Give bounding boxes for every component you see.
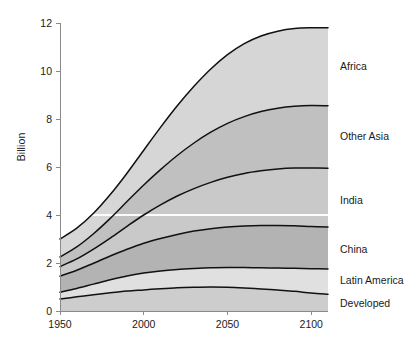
series-labels-group: DevelopedLatin AmericaChinaIndiaOther As… xyxy=(340,60,404,309)
y-tick-labels-group: 024681012 xyxy=(40,17,52,317)
chart-canvas: 024681012 1950200020502100 DevelopedLati… xyxy=(0,0,413,348)
y-tick-label: 6 xyxy=(46,161,52,173)
series-label-developed: Developed xyxy=(340,297,390,309)
y-tick-label: 0 xyxy=(46,305,52,317)
series-label-africa: Africa xyxy=(340,60,367,72)
y-tick-label: 12 xyxy=(40,17,52,29)
x-tick-label: 2000 xyxy=(132,318,156,330)
series-label-india: India xyxy=(340,194,363,206)
population-stacked-area-chart: Billion 024681012 1950200020502100 Devel… xyxy=(0,0,413,348)
series-label-china: China xyxy=(340,243,368,255)
y-tick-label: 2 xyxy=(46,257,52,269)
x-tick-label: 1950 xyxy=(48,318,72,330)
series-label-latin-america: Latin America xyxy=(340,274,404,286)
series-label-other-asia: Other Asia xyxy=(340,130,389,142)
y-tick-label: 10 xyxy=(40,65,52,77)
y-tick-label: 4 xyxy=(46,209,52,221)
x-tick-label: 2050 xyxy=(216,318,240,330)
x-tick-label: 2100 xyxy=(300,318,324,330)
y-tick-label: 8 xyxy=(46,113,52,125)
x-tick-labels-group: 1950200020502100 xyxy=(48,318,323,330)
